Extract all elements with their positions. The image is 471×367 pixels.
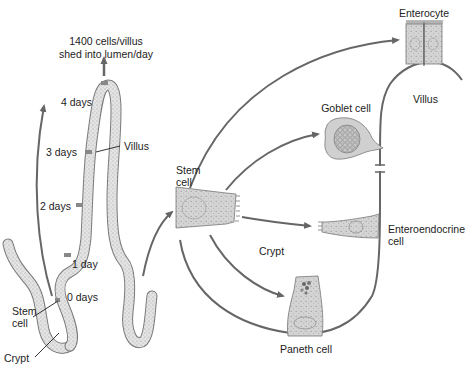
- to-stem-cell-arrow: [143, 212, 172, 276]
- paneth-cell-label: Paneth cell: [280, 343, 332, 355]
- enteroendocrine-label-line2: cell: [388, 235, 404, 247]
- timepoint-2-days: 2 days: [40, 200, 71, 212]
- arrow-to-goblet: [226, 134, 318, 190]
- arrow-to-enteroendocrine: [242, 217, 310, 226]
- goblet-cell-illustration: [325, 118, 383, 159]
- right-crypt-label: Crypt: [259, 245, 284, 257]
- shed-label-line2: shed into lumen/day: [59, 48, 153, 60]
- right-stem-cell-label-line2: cell: [176, 176, 192, 188]
- enterocyte-illustration: [406, 20, 443, 66]
- enteroendocrine-cell-illustration: [318, 214, 379, 238]
- goblet-cell-label: Goblet cell: [321, 102, 371, 114]
- shed-label-line1: 1400 cells/villus: [69, 35, 143, 47]
- paneth-cell-illustration: [287, 276, 322, 336]
- timepoint-0-days: 0 days: [67, 291, 98, 303]
- stem-cell-illustration: [176, 187, 240, 228]
- left-stem-cell-label-line1: Stem: [12, 305, 37, 317]
- arrow-to-enterocyte: [190, 40, 398, 188]
- marker-2-days: [76, 203, 83, 207]
- timepoint-3-days: 3 days: [46, 146, 77, 158]
- left-stem-cell-label-line2: cell: [12, 317, 28, 329]
- left-crypt-label: Crypt: [4, 352, 29, 364]
- left-villus-label: Villus: [124, 140, 149, 152]
- enteroendocrine-label-line1: Enteroendocrine: [388, 223, 465, 235]
- marker-1-day: [64, 253, 71, 257]
- right-villus-label: Villus: [413, 93, 438, 105]
- enterocyte-label: Enterocyte: [399, 7, 449, 19]
- timepoint-1-day: 1 day: [72, 258, 98, 270]
- marker-4-days: [101, 81, 108, 85]
- marker-3-days: [85, 150, 92, 154]
- right-stem-cell-label-line1: Stem: [176, 164, 201, 176]
- timepoint-4-days: 4 days: [61, 96, 92, 108]
